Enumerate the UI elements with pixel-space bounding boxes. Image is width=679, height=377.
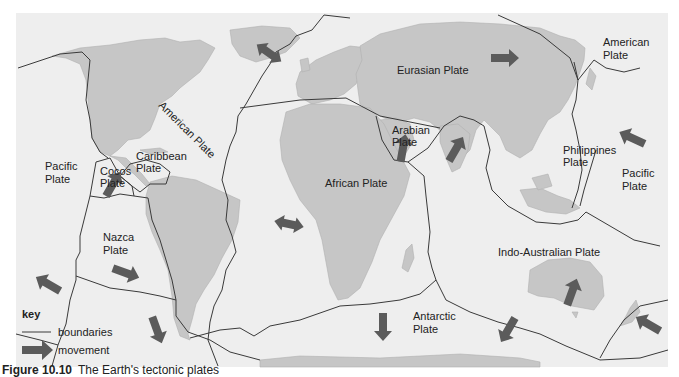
figure-caption-text: The Earth's tectonic plates [78,363,219,377]
label-cocos-plate-2: Plate [100,177,125,189]
label-american-plate-ne: American [603,36,649,48]
key-movement-label: movement [58,344,109,356]
label-pacific-plate-e-2: Plate [622,180,647,192]
key-title: key [22,308,41,320]
label-arabian-plate-2: Plate [392,136,417,148]
label-african-plate: African Plate [325,177,387,189]
key-boundaries-label: boundaries [58,326,113,338]
label-eurasian-plate: Eurasian Plate [397,64,469,76]
label-antarctic-plate-2: Plate [413,323,438,335]
label-pacific-plate-w: Pacific [45,160,78,172]
label-american-plate-ne-2: Plate [603,49,628,61]
label-nazca-plate-2: Plate [103,244,128,256]
land-british-isles [300,58,310,72]
figure-caption-label: Figure 10.10 [2,363,72,377]
label-indo-australian-plate: Indo-Australian Plate [498,246,600,258]
label-cocos-plate: Cocos [100,165,132,177]
label-nazca-plate: Nazca [103,231,135,243]
label-arabian-plate: Arabian [392,124,430,136]
label-caribbean-plate-2: Plate [136,162,161,174]
label-philippines-plate-2: Plate [563,156,588,168]
figure-caption: Figure 10.10The Earth's tectonic plates [2,363,219,377]
label-pacific-plate-w-2: Plate [45,173,70,185]
label-pacific-plate-e: Pacific [622,167,655,179]
label-caribbean-plate: Caribbean [136,150,187,162]
label-antarctic-plate: Antarctic [413,310,456,322]
label-philippines-plate: Philippines [563,144,617,156]
